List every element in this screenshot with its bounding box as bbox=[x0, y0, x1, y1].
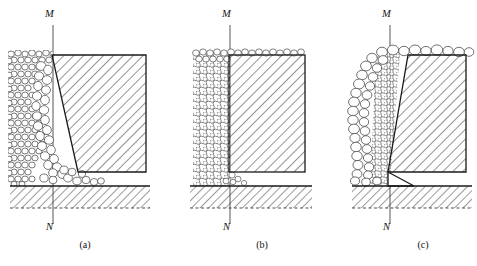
foundation-ground-b bbox=[190, 186, 312, 208]
retaining-wall-a bbox=[52, 55, 146, 172]
panel-c: M N (c) bbox=[318, 0, 477, 266]
panel-a-canvas bbox=[0, 0, 159, 266]
panel-b-canvas bbox=[159, 0, 318, 266]
granular-fill-b bbox=[193, 52, 230, 186]
retaining-wall-b bbox=[229, 55, 305, 172]
label-n-c: N bbox=[383, 221, 390, 232]
panel-a: M N (a) bbox=[0, 0, 159, 266]
label-m-c: M bbox=[382, 8, 391, 19]
caption-c: (c) bbox=[398, 239, 448, 250]
caption-b: (b) bbox=[237, 239, 287, 250]
rotation-gap-wedge-c bbox=[388, 172, 414, 186]
label-m-b: M bbox=[222, 8, 231, 19]
retaining-wall-c bbox=[388, 55, 466, 172]
foundation-ground-a bbox=[10, 186, 150, 208]
caption-a: (a) bbox=[60, 239, 110, 250]
label-m-a: M bbox=[45, 8, 54, 19]
label-n-b: N bbox=[223, 221, 230, 232]
foundation-ground-c bbox=[352, 186, 472, 208]
panel-b: M N (b) bbox=[159, 0, 318, 266]
retaining-wall-figure: M N (a) bbox=[0, 0, 477, 266]
label-n-a: N bbox=[46, 221, 53, 232]
panel-c-canvas bbox=[318, 0, 477, 266]
